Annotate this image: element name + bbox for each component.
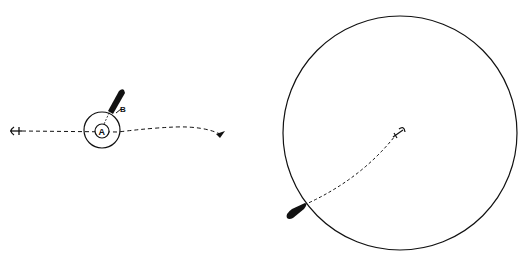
anchor-icon-right	[393, 128, 405, 138]
left-panel: A B	[10, 89, 225, 148]
diagram-canvas: A B	[0, 0, 523, 259]
anchor-icon-left	[10, 127, 22, 135]
boat-icon-right	[287, 203, 307, 219]
label-b: B	[120, 105, 126, 114]
swing-circle-large	[283, 16, 517, 250]
right-panel	[283, 16, 517, 250]
rode-right	[304, 136, 395, 205]
arrow-icon	[216, 131, 225, 138]
drift-path-left	[22, 127, 222, 135]
label-a: A	[99, 127, 106, 137]
